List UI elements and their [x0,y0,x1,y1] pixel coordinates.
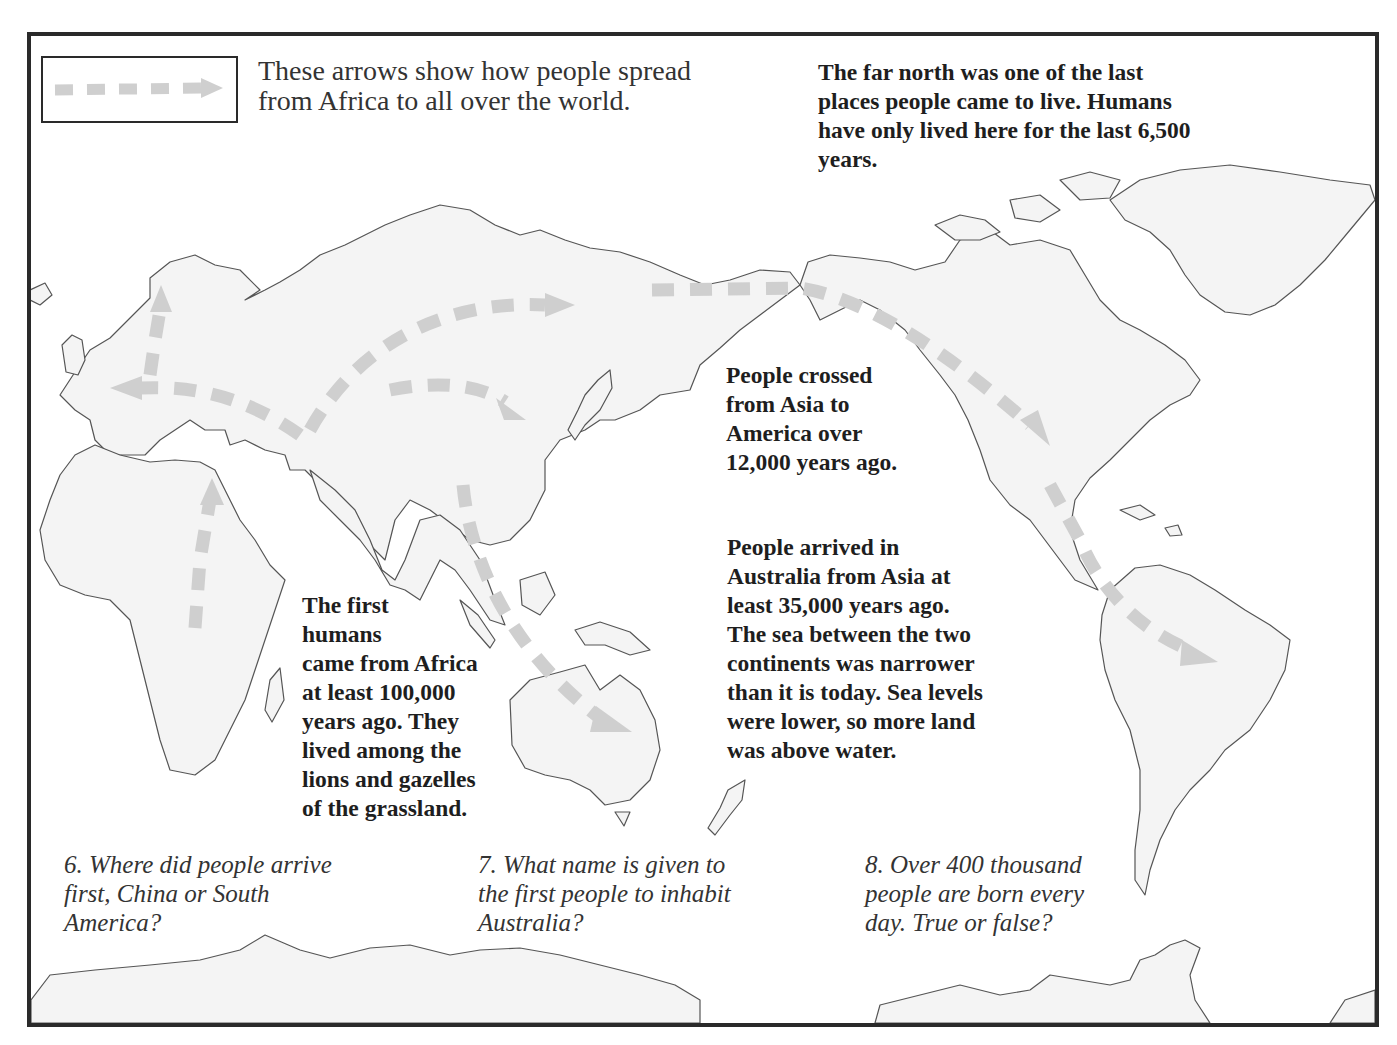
caribbean-islands [1120,505,1182,536]
question-line: people are born every [865,879,1084,908]
fact-line: The far north was one of the last [818,58,1191,87]
fact-australia: People arrived in Australia from Asia at… [727,533,983,765]
fact-line: were lower, so more land [727,707,983,736]
fact-line: lived among the [302,736,478,765]
fact-line: years. [818,145,1191,174]
question-line: 6. Where did people arrive [64,850,332,879]
legend-box [41,56,238,123]
fact-asia-to-america: People crossed from Asia to America over… [726,361,897,477]
tasmania [615,812,630,826]
question-line: America? [64,908,332,937]
fact-line: at least 100,000 [302,678,478,707]
fact-line: humans [302,620,478,649]
fact-line: than it is today. Sea levels [727,678,983,707]
question-8: 8. Over 400 thousand people are born eve… [865,850,1084,937]
question-7: 7. What name is given to the first peopl… [478,850,731,937]
antarctica-west [31,935,700,1023]
greenland-landmass [1110,165,1375,315]
question-line: day. True or false? [865,908,1084,937]
fact-line: The sea between the two [727,620,983,649]
fact-line: from Asia to [726,390,897,419]
fact-line: years ago. They [302,707,478,736]
fact-line: Australia from Asia at [727,562,983,591]
fact-line: places people came to live. Humans [818,87,1191,116]
new-zealand [708,780,745,835]
question-line: first, China or South [64,879,332,908]
legend-text: These arrows show how people spread from… [258,56,758,116]
fact-line: lions and gazelles [302,765,478,794]
question-line: 7. What name is given to [478,850,731,879]
australia-landmass [510,665,660,805]
south-america-landmass [1100,565,1290,895]
fact-line: continents was narrower [727,649,983,678]
iceland [30,283,52,305]
arctic-islands [935,172,1120,240]
legend-line: from Africa to all over the world. [258,86,758,116]
fact-line: The first [302,591,478,620]
fact-line: least 35,000 years ago. [727,591,983,620]
new-guinea [575,622,650,655]
question-line: the first people to inhabit [478,879,731,908]
fact-line: People crossed [726,361,897,390]
question-6: 6. Where did people arrive first, China … [64,850,332,937]
fact-far-north: The far north was one of the last places… [818,58,1191,174]
legend-line: These arrows show how people spread [258,56,758,86]
fact-line: have only lived here for the last 6,500 [818,116,1191,145]
fact-africa: The first humans came from Africa at lea… [302,591,478,823]
fact-line: 12,000 years ago. [726,448,897,477]
fact-line: was above water. [727,736,983,765]
antarctica-east [875,940,1375,1023]
fact-line: of the grassland. [302,794,478,823]
question-line: Australia? [478,908,731,937]
fact-line: America over [726,419,897,448]
africa-landmass [40,445,285,775]
fact-line: People arrived in [727,533,983,562]
dashed-arrow-icon [43,58,236,121]
fact-line: came from Africa [302,649,478,678]
question-line: 8. Over 400 thousand [865,850,1084,879]
borneo [520,572,555,615]
madagascar [265,668,284,722]
